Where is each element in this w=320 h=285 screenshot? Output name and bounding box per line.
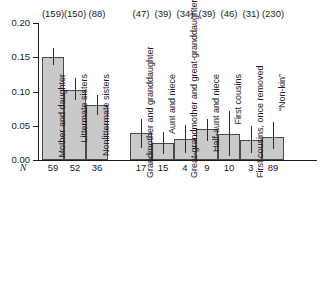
y-tick-mark xyxy=(33,126,38,127)
category-label: Grandmother and granddaughter xyxy=(145,74,155,178)
error-bar xyxy=(97,95,98,115)
category-label: Great-grandmother and great-granddaughte… xyxy=(189,74,199,178)
y-tick-mark xyxy=(33,23,38,24)
error-bar xyxy=(229,111,230,156)
error-bar xyxy=(273,122,274,149)
y-tick-mark xyxy=(33,57,38,58)
category-label: First cousins xyxy=(233,74,243,178)
sample-count-label: (230) xyxy=(257,9,289,19)
bar-chart-figure: 0.000.050.100.150.20 (159)(150)(88)(47)(… xyxy=(0,0,320,285)
n-row-symbol: N xyxy=(20,163,26,173)
category-label: Littermate sisters xyxy=(79,74,89,178)
error-bar xyxy=(141,119,142,148)
y-tick-label: 0.15 xyxy=(0,52,30,62)
error-bar xyxy=(75,78,76,101)
error-bar xyxy=(185,125,186,153)
category-label: First cousins, once removed xyxy=(255,74,265,178)
error-bar xyxy=(251,126,252,153)
error-bar xyxy=(207,119,208,141)
category-label: Mother and daughter xyxy=(57,74,67,178)
y-tick-label: 0.20 xyxy=(0,18,30,28)
category-label: Half-aunt and niece xyxy=(211,74,221,178)
category-label: Nonlittermate sisters xyxy=(101,74,111,178)
y-tick-label: 0.10 xyxy=(0,87,30,97)
category-label: Aunt and niece xyxy=(167,74,177,178)
category-label: “Non-kin” xyxy=(277,74,287,178)
error-bar xyxy=(163,132,164,154)
error-bar xyxy=(53,48,54,66)
y-tick-mark xyxy=(33,92,38,93)
sample-count-label: (88) xyxy=(81,9,113,19)
y-tick-label: 0.05 xyxy=(0,121,30,131)
